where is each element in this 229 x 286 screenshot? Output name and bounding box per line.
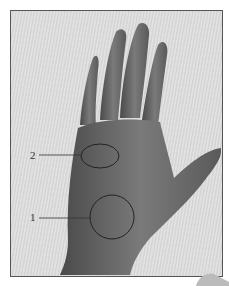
hand-illustration (0, 0, 229, 286)
label-2: 2 (30, 149, 36, 161)
label-1: 1 (30, 211, 36, 223)
